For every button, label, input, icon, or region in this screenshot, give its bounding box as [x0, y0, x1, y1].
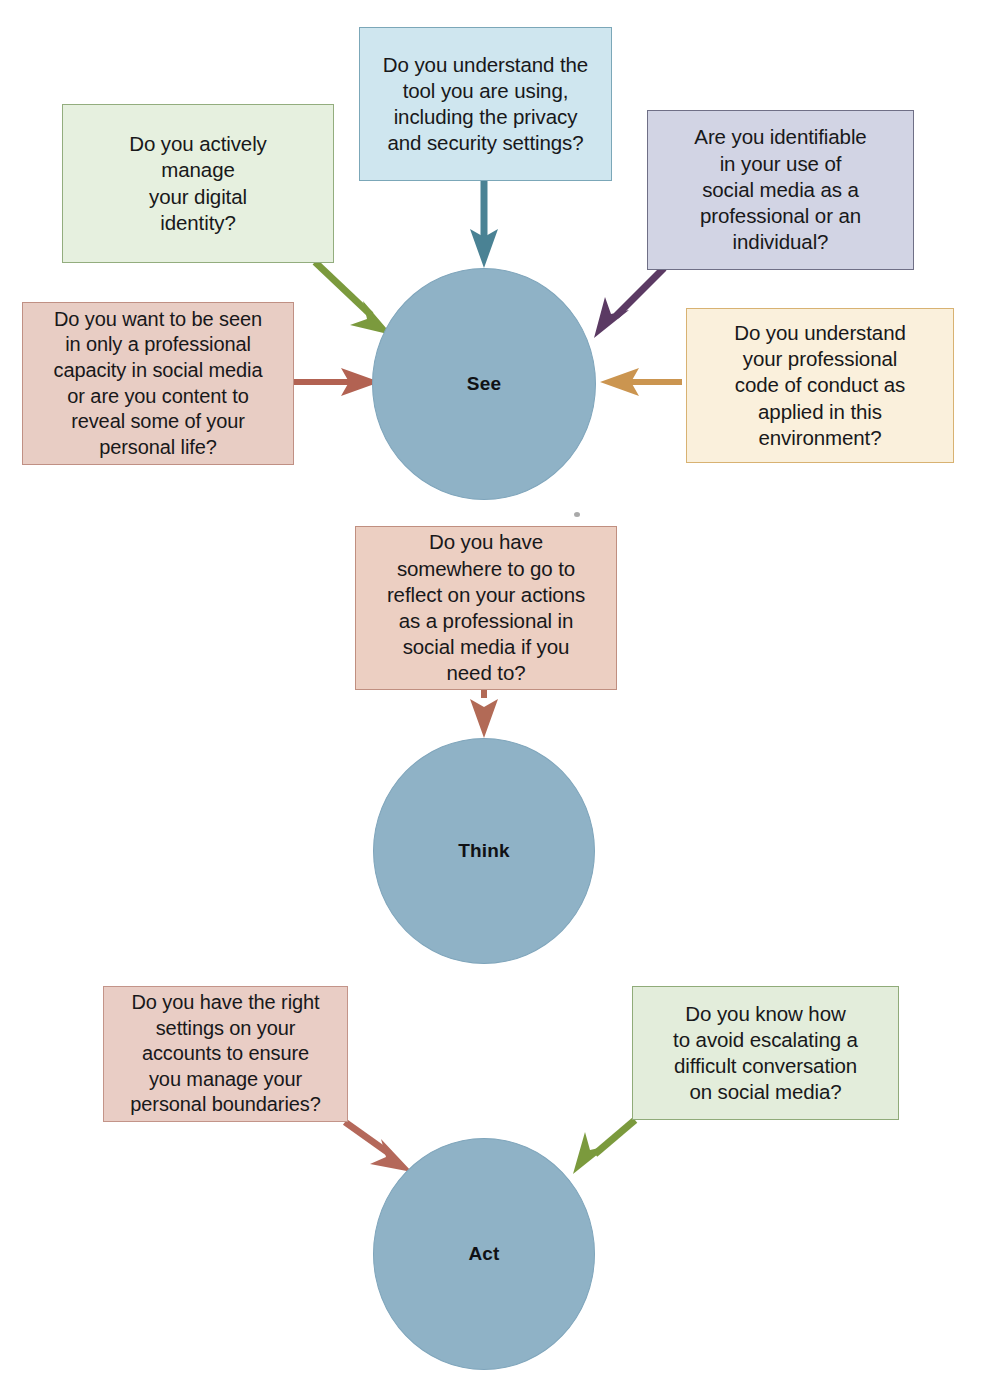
- arrow-reflect-somewhere-to-think: [470, 690, 498, 738]
- arrow-identifiable-use-to-see: [594, 268, 664, 338]
- diagram-canvas: Do you understand the tool you are using…: [0, 0, 989, 1385]
- node-act-label: Act: [468, 1243, 499, 1265]
- arrow-account-settings-to-act: [345, 1122, 412, 1172]
- question-box-reflect-somewhere[interactable]: Do you have somewhere to go to reflect o…: [355, 526, 617, 690]
- question-box-identifiable-use[interactable]: Are you identifiable in your use of soci…: [647, 110, 914, 270]
- arrow-digital-identity-to-see: [315, 262, 392, 335]
- node-act[interactable]: Act: [373, 1138, 595, 1370]
- arrow-code-of-conduct-to-see: [600, 368, 682, 396]
- node-see-label: See: [467, 373, 501, 395]
- arrow-professional-capacity-to-see: [293, 368, 380, 396]
- question-box-professional-capacity[interactable]: Do you want to be seen in only a profess…: [22, 302, 294, 465]
- question-box-account-settings[interactable]: Do you have the right settings on your a…: [103, 986, 348, 1122]
- question-box-digital-identity[interactable]: Do you actively manage your digital iden…: [62, 104, 334, 263]
- arrow-tool-understanding-to-see: [470, 180, 498, 268]
- question-box-avoid-escalating[interactable]: Do you know how to avoid escalating a di…: [632, 986, 899, 1120]
- arrow-avoid-escalating-to-act: [573, 1120, 635, 1174]
- node-think[interactable]: Think: [373, 738, 595, 964]
- question-box-code-of-conduct[interactable]: Do you understand your professional code…: [686, 308, 954, 463]
- scan-speck: [574, 512, 580, 517]
- question-box-tool-understanding[interactable]: Do you understand the tool you are using…: [359, 27, 612, 181]
- node-see[interactable]: See: [372, 268, 596, 500]
- node-think-label: Think: [458, 840, 510, 862]
